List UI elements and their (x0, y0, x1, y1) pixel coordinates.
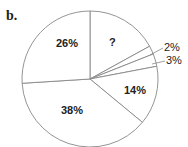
slice-label-14pct: 14% (124, 84, 146, 96)
slice-label-unknown: ? (109, 36, 116, 48)
slice-label-38pct: 38% (61, 104, 83, 116)
pie-chart: ? 2% 3% 14% 38% 26% (0, 0, 188, 147)
slice-label-3pct: 3% (166, 54, 182, 66)
pie-slices (22, 11, 158, 147)
slice-label-26pct: 26% (56, 37, 78, 49)
slice-label-2pct: 2% (164, 41, 180, 53)
